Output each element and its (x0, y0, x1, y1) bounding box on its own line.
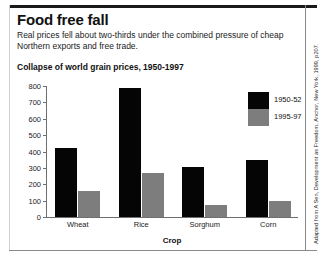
bar-rice-1995-97 (142, 173, 164, 217)
bar-sorghum-1950-52 (182, 167, 204, 217)
chart-title: Collapse of world grain prices, 1950-199… (17, 62, 184, 72)
y-tick-label: 200 (28, 180, 41, 189)
bar-wheat-1950-52 (55, 148, 77, 217)
left-frame-line (9, 5, 10, 251)
y-tick-label: 300 (28, 163, 41, 172)
y-tick-label: 100 (28, 196, 41, 205)
x-axis-tick-labels: WheatRiceSorghumCorn (46, 220, 298, 232)
x-axis-title: Crop (46, 236, 298, 245)
y-tick-label: 800 (28, 82, 41, 91)
right-frame-line (305, 5, 306, 251)
x-tick-label: Rice (134, 220, 149, 229)
bar-corn-1995-97 (269, 201, 291, 217)
figure-container: Food free fall Real prices fell about tw… (0, 0, 333, 266)
bar-sorghum-1995-97 (205, 205, 227, 217)
top-rule (9, 5, 317, 8)
y-tick-label: 600 (28, 114, 41, 123)
legend-label: 1950-52 (274, 95, 302, 104)
y-tick-label: 500 (28, 131, 41, 140)
y-axis-tick-labels: 0100200300400500600700800 (12, 86, 41, 217)
legend-swatch (248, 92, 269, 109)
y-tick-label: 400 (28, 147, 41, 156)
x-tick-label: Sorghum (190, 220, 220, 229)
source-citation: Adapted from A Sen, Development as Freed… (313, 44, 319, 244)
page-subtitle: Real prices fell about two-thirds under … (17, 30, 297, 51)
x-tick-label: Corn (260, 220, 276, 229)
bar-rice-1950-52 (119, 88, 141, 217)
page-title: Food free fall (17, 11, 297, 28)
headline-block: Food free fall Real prices fell about tw… (17, 11, 297, 51)
bottom-rule (9, 250, 317, 251)
x-axis-line (46, 217, 298, 218)
x-tick-label: Wheat (67, 220, 89, 229)
legend-swatch (248, 109, 269, 126)
bar-wheat-1995-97 (78, 191, 100, 217)
legend-label: 1995-97 (274, 112, 302, 121)
bar-corn-1950-52 (246, 160, 268, 217)
y-tick-label: 700 (28, 98, 41, 107)
y-tick-label: 0 (37, 213, 41, 222)
